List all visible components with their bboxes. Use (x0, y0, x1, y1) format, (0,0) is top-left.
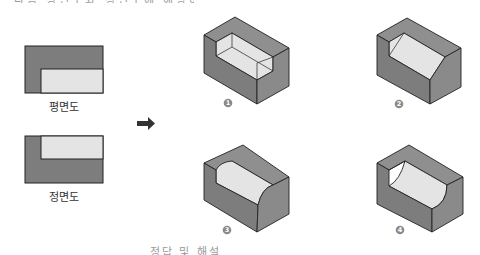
right-arrow-icon (137, 117, 155, 130)
svg-text:3: 3 (225, 226, 230, 234)
front-view-drawing (25, 136, 103, 183)
footer-clipped: 정답 및 해설 (150, 243, 400, 255)
choice-3-solid[interactable]: 3 (204, 145, 289, 234)
front-view-label: 정면도 (24, 188, 104, 204)
plan-view-label: 평면도 (24, 98, 104, 114)
svg-text:2: 2 (397, 100, 402, 108)
choice-1-solid[interactable]: 1 (204, 17, 289, 107)
choice-4-solid[interactable]: 4 (377, 145, 463, 234)
plan-view-drawing (25, 46, 103, 93)
svg-text:1: 1 (226, 99, 231, 107)
choice-2-solid[interactable]: 2 (377, 18, 461, 108)
svg-text:4: 4 (398, 226, 403, 234)
